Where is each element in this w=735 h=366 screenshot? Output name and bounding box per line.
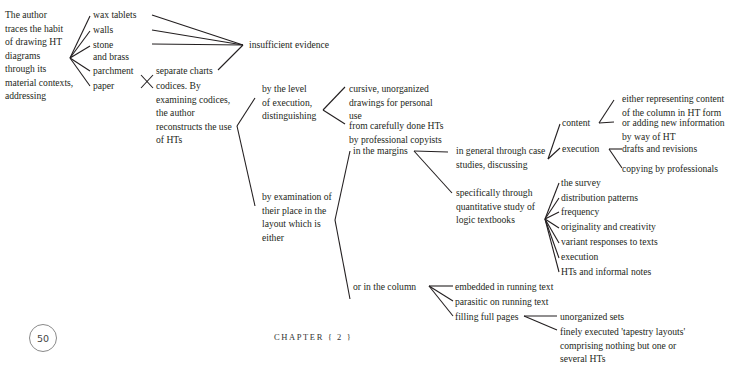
by-level-of-execution: by the level of execution, distinguishin… — [262, 82, 316, 123]
adding-line: or adding new information — [622, 116, 725, 130]
by-examination-layout: by examination of their place in the lay… — [262, 190, 332, 244]
specific-line: specifically through — [456, 186, 535, 200]
content-node: content — [562, 116, 590, 130]
specific-line: quantitative study of — [456, 200, 535, 214]
level-line: of execution, — [262, 96, 316, 110]
root-line: addressing — [5, 89, 73, 103]
level-line: by the level — [262, 82, 316, 96]
material-parchment: parchment — [93, 64, 134, 78]
item-execution: execution — [561, 250, 598, 264]
in-the-column: or in the column — [353, 280, 416, 294]
separate-charts: separate charts — [156, 64, 213, 78]
material-wax-tablets: wax tablets — [93, 8, 136, 22]
finely-line: several HTs — [560, 352, 685, 366]
careful-hts: from carefully done HTs by professional … — [349, 119, 443, 146]
root-text: The author traces the habit of drawing H… — [5, 8, 73, 103]
unorganized-sets: unorganized sets — [560, 310, 624, 324]
item-variant: variant responses to texts — [561, 235, 658, 249]
execution-node: execution — [562, 142, 599, 156]
item-frequency: frequency — [561, 205, 599, 219]
material-walls: walls — [93, 23, 113, 37]
codices-text: codices. By examining codices, the autho… — [156, 79, 232, 147]
item-survey: the survey — [561, 176, 601, 190]
tapestry-layouts: finely executed 'tapestry layouts' compr… — [560, 325, 685, 366]
codices-line: examining codices, — [156, 93, 232, 107]
root-line: diagrams — [5, 49, 73, 63]
chapter-heading: CHAPTER { 2 } — [274, 332, 352, 342]
codices-line: codices. By — [156, 79, 232, 93]
codices-line: reconstructs the use — [156, 120, 232, 134]
item-distribution: distribution patterns — [561, 191, 638, 205]
filling-full-pages: filling full pages — [455, 310, 518, 324]
layout-line: by examination of — [262, 190, 332, 204]
finely-line: comprising nothing but one or — [560, 339, 685, 353]
layout-line: their place in the — [262, 204, 332, 218]
either-line: either representing content — [622, 92, 724, 106]
embedded-text: embedded in running text — [455, 280, 553, 294]
either-representing: either representing content of the colum… — [622, 92, 724, 119]
cursive-drawings: cursive, unorganized drawings for person… — [349, 82, 433, 123]
general-line: in general through case — [456, 144, 545, 158]
cursive-line: cursive, unorganized — [349, 82, 433, 96]
specific-line: logic textbooks — [456, 213, 535, 227]
root-line: material contexts, — [5, 76, 73, 90]
codices-line: of HTs — [156, 133, 232, 147]
copying-professionals: copying by professionals — [622, 162, 718, 176]
layout-line: layout which is — [262, 217, 332, 231]
material-paper: paper — [93, 79, 114, 93]
adding-new-info: or adding new information by way of HT — [622, 116, 725, 143]
parasitic-text: parasitic on running text — [455, 295, 549, 309]
general-line: studies, discussing — [456, 158, 545, 172]
drafts-revisions: drafts and revisions — [622, 142, 697, 156]
root-line: traces the habit — [5, 22, 73, 36]
insufficient-evidence: insufficient evidence — [249, 38, 329, 52]
root-line: of drawing HT — [5, 35, 73, 49]
root-line: through its — [5, 62, 73, 76]
general-case-studies: in general through case studies, discuss… — [456, 144, 545, 171]
layout-line: either — [262, 231, 332, 245]
careful-line: from carefully done HTs — [349, 119, 443, 133]
level-line: distinguishing — [262, 109, 316, 123]
codices-line: the author — [156, 106, 232, 120]
item-originality: originality and creativity — [561, 220, 656, 234]
specific-quantitative: specifically through quantitative study … — [456, 186, 535, 227]
root-line: The author — [5, 8, 73, 22]
item-hts-notes: HTs and informal notes — [561, 265, 651, 279]
material-brass: and brass — [93, 50, 129, 64]
in-the-margins: in the margins — [353, 144, 408, 158]
page-number: 50 — [29, 324, 57, 352]
finely-line: finely executed 'tapestry layouts' — [560, 325, 685, 339]
cursive-line: drawings for personal — [349, 96, 433, 110]
adding-line: by way of HT — [622, 130, 725, 144]
